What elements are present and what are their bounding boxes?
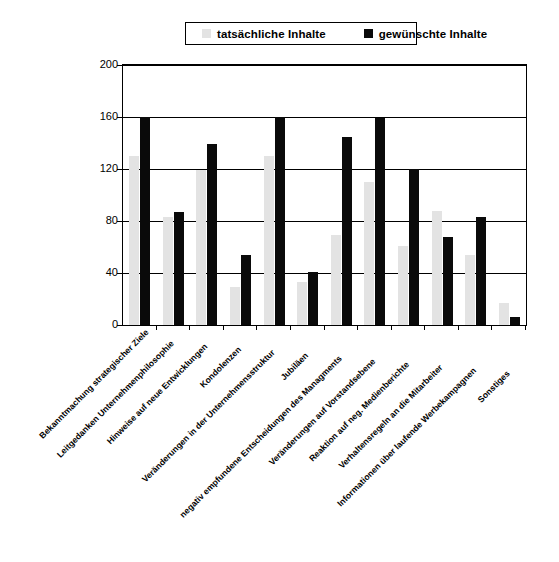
- bar-chart: tatsächliche Inhalte gewünschte Inhalte …: [0, 0, 559, 562]
- bar-actual-7: [364, 182, 374, 325]
- bar-desired-8: [409, 169, 419, 325]
- bar-actual-3: [230, 287, 240, 325]
- plot-area: [122, 64, 527, 326]
- bar-actual-8: [398, 246, 408, 325]
- y-tick-40: [117, 273, 123, 274]
- bar-desired-9: [443, 237, 453, 325]
- bar-desired-0: [140, 117, 150, 325]
- y-tick-160: [117, 117, 123, 118]
- gridline-200: [123, 65, 526, 66]
- bar-actual-5: [297, 282, 307, 325]
- bar-desired-7: [375, 118, 385, 325]
- bar-desired-4: [275, 117, 285, 325]
- gridline-160: [123, 117, 526, 118]
- y-tick-label-120: 120: [100, 162, 118, 174]
- bar-desired-11: [510, 317, 520, 325]
- bar-desired-6: [342, 137, 352, 326]
- y-tick-80: [117, 221, 123, 222]
- y-tick-120: [117, 169, 123, 170]
- y-tick-label-200: 200: [100, 58, 118, 70]
- y-tick-label-160: 160: [100, 110, 118, 122]
- bar-actual-9: [432, 211, 442, 325]
- x-axis-label-9: Verhaltensregeln an die Mitarbeiter: [126, 362, 445, 562]
- bar-actual-0: [129, 156, 139, 325]
- bar-actual-11: [499, 303, 509, 325]
- chart-legend: tatsächliche Inhalte gewünschte Inhalte: [185, 22, 417, 45]
- bar-desired-10: [476, 217, 486, 325]
- legend-swatch-desired-icon: [364, 29, 373, 38]
- bar-actual-10: [465, 255, 475, 325]
- legend-label-desired: gewünschte Inhalte: [379, 28, 488, 40]
- legend-label-actual: tatsächliche Inhalte: [217, 28, 326, 40]
- bar-desired-1: [174, 212, 184, 325]
- bar-actual-6: [331, 235, 341, 325]
- x-axis-labels: Bekanntmachung strategischer ZieleLeitge…: [0, 326, 559, 556]
- legend-entry-actual: tatsächliche Inhalte: [202, 28, 326, 40]
- bar-actual-1: [163, 217, 173, 325]
- y-tick-label-40: 40: [106, 266, 118, 278]
- x-axis-label-3: Kondolenzen: [67, 344, 243, 520]
- bar-desired-5: [308, 272, 318, 325]
- y-tick-label-80: 80: [106, 214, 118, 226]
- y-axis-labels: 04080120160200: [96, 64, 118, 324]
- bar-desired-3: [241, 255, 251, 325]
- bar-actual-4: [264, 156, 274, 325]
- y-tick-200: [117, 65, 123, 66]
- gridline-120: [123, 169, 526, 170]
- bar-desired-2: [207, 144, 217, 325]
- legend-entry-desired: gewünschte Inhalte: [364, 28, 488, 40]
- bar-actual-2: [196, 170, 206, 325]
- legend-swatch-actual-icon: [202, 29, 211, 38]
